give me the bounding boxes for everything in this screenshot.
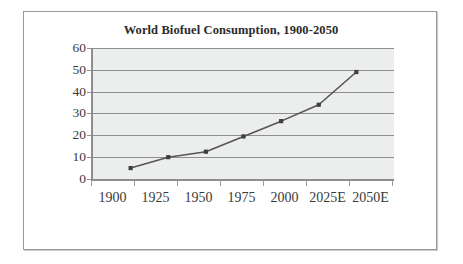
data-series-line bbox=[93, 48, 394, 179]
x-tick-mark-0 bbox=[91, 181, 92, 186]
x-tick-label-1975: 1975 bbox=[220, 190, 263, 205]
x-tick-label-1925: 1925 bbox=[134, 190, 177, 205]
x-tick-mark-2 bbox=[177, 181, 178, 186]
y-tick-label-0: 0 bbox=[52, 172, 86, 186]
chart-screenshot: World Biofuel Consumption, 1900-2050 60 … bbox=[0, 0, 463, 264]
x-tick-mark-7 bbox=[392, 181, 393, 186]
data-point-2000 bbox=[279, 119, 283, 123]
x-tick-mark-4 bbox=[263, 181, 264, 186]
y-tick-label-40: 40 bbox=[52, 85, 86, 99]
x-tick-mark-3 bbox=[220, 181, 221, 186]
chart-title: World Biofuel Consumption, 1900-2050 bbox=[24, 23, 438, 38]
y-tick-label-30: 30 bbox=[52, 106, 86, 120]
x-tick-label-2025E: 2025E bbox=[306, 190, 349, 205]
data-point-1925 bbox=[166, 155, 170, 159]
x-tick-label-2050E: 2050E bbox=[349, 190, 392, 205]
y-tick-label-50: 50 bbox=[52, 63, 86, 77]
y-tick-label-10: 10 bbox=[52, 150, 86, 164]
y-tick-label-60: 60 bbox=[52, 41, 86, 55]
x-tick-mark-5 bbox=[306, 181, 307, 186]
x-tick-mark-6 bbox=[349, 181, 350, 186]
data-point-2050E bbox=[354, 70, 358, 74]
data-point-1950 bbox=[204, 150, 208, 154]
series-polyline bbox=[131, 72, 357, 168]
x-tick-label-1900: 1900 bbox=[91, 190, 134, 205]
x-tick-mark-1 bbox=[134, 181, 135, 186]
y-tick-label-20: 20 bbox=[52, 128, 86, 142]
chart-frame: World Biofuel Consumption, 1900-2050 60 … bbox=[23, 11, 437, 250]
data-point-1975 bbox=[241, 134, 245, 138]
plot-area bbox=[91, 48, 394, 179]
data-point-2025E bbox=[317, 103, 321, 107]
series-markers bbox=[129, 70, 359, 170]
data-point-1900 bbox=[129, 166, 133, 170]
x-axis-labels: 1900 1925 1950 1975 2000 2025E 2050E bbox=[91, 190, 392, 212]
y-axis-labels: 60 50 40 30 20 10 0 bbox=[52, 48, 86, 179]
x-tick-label-2000: 2000 bbox=[263, 190, 306, 205]
x-tick-label-1950: 1950 bbox=[177, 190, 220, 205]
